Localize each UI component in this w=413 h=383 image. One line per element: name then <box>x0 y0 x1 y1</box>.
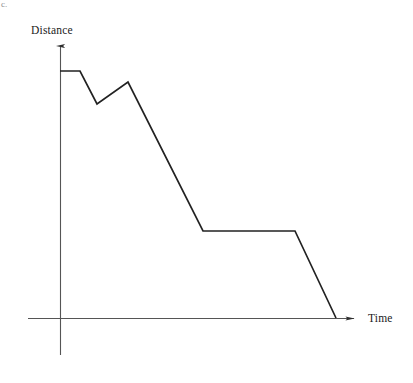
y-axis-label: Distance <box>31 24 73 36</box>
distance-time-graph-figure: c. Distance Time <box>0 0 413 383</box>
x-axis-label: Time <box>368 312 393 324</box>
plot-canvas <box>0 0 413 383</box>
distance-time-line <box>60 71 336 318</box>
